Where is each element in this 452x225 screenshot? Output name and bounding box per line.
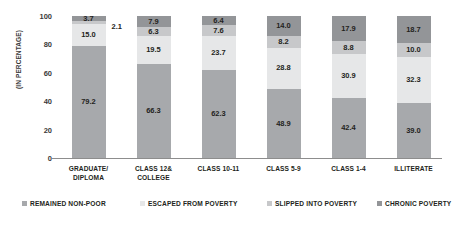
bar-segment-label: 6.3 [148, 28, 158, 36]
bar-segment-label: 2.1 [112, 23, 122, 31]
bar-segment[interactable]: 23.7 [202, 36, 236, 70]
bar-group[interactable]: 14.08.228.848.9 [267, 16, 301, 158]
bar-segment-label: 19.5 [146, 46, 161, 54]
legend-swatch-icon [140, 201, 145, 206]
bar-segment[interactable]: 15.0 [72, 24, 106, 45]
x-axis-label: ILLITERATE [376, 164, 452, 173]
bar-segment[interactable]: 8.2 [267, 36, 301, 48]
y-tick-80: 80 [26, 40, 52, 49]
legend-label: REMAINED NON-POOR [30, 200, 106, 207]
bar-segment-label: 14.0 [276, 22, 291, 30]
bar-segment-label: 7.6 [213, 27, 223, 35]
bar-segment[interactable]: 6.3 [137, 27, 171, 36]
bar-group[interactable]: 6.47.623.762.3 [202, 16, 236, 158]
bar-segment-label: 42.4 [341, 124, 356, 132]
y-axis-title: (IN PERCENTAGE) [15, 15, 22, 105]
bar-segment[interactable]: 62.3 [202, 70, 236, 158]
x-axis-label-line: COLLEGE [116, 173, 192, 182]
legend-swatch-icon [22, 201, 27, 206]
bar-segment-label: 62.3 [211, 110, 226, 118]
stacked-bar-chart: (IN PERCENTAGE) 020406080100 3.72.115.07… [0, 0, 452, 225]
bar-segment[interactable]: 66.3 [137, 64, 171, 158]
bar-segment[interactable]: 79.2 [72, 46, 106, 158]
bar-segment-label: 32.3 [406, 76, 421, 84]
bar-segment[interactable]: 19.5 [137, 36, 171, 64]
bar-segment[interactable]: 32.3 [397, 57, 431, 103]
bar-segment[interactable]: 42.4 [332, 98, 366, 158]
bar-group[interactable]: 18.710.032.339.0 [397, 16, 431, 158]
plot-area: 3.72.115.079.27.96.319.566.36.47.623.762… [56, 16, 446, 158]
bar-segment-label: 18.7 [406, 26, 421, 34]
legend-swatch-icon [267, 201, 272, 206]
bar-segment-label: 39.0 [406, 127, 421, 135]
bar-segment[interactable]: 39.0 [397, 103, 431, 158]
bar-segment[interactable]: 28.8 [267, 48, 301, 89]
chart-legend: REMAINED NON-POORESCAPED FROM POVERTYSLI… [22, 198, 434, 208]
legend-label: SLIPPED INTO POVERTY [275, 200, 357, 207]
legend-item[interactable]: REMAINED NON-POOR [22, 200, 106, 207]
legend-label: ESCAPED FROM POVERTY [148, 200, 237, 207]
legend-swatch-icon [377, 201, 382, 206]
bar-segment-label: 10.0 [406, 46, 421, 54]
bar-segment-label: 28.8 [276, 64, 291, 72]
bar-segment[interactable]: 17.9 [332, 16, 366, 41]
y-tick-100: 100 [26, 12, 52, 21]
bar-segment-label: 48.9 [276, 120, 291, 128]
bar-segment-label: 23.7 [211, 49, 226, 57]
bar-segment[interactable]: 30.9 [332, 54, 366, 98]
x-axis-line [52, 158, 442, 159]
bar-segment-label: 17.9 [341, 25, 356, 33]
y-tick-60: 60 [26, 68, 52, 77]
legend-label: CHRONIC POVERTY [385, 200, 451, 207]
x-axis-labels: GRADUATE/DIPLOMACLASS 12&COLLEGECLASS 10… [56, 164, 446, 190]
bar-segment[interactable]: 18.7 [397, 16, 431, 43]
bar-segment[interactable]: 8.8 [332, 41, 366, 53]
y-tick-40: 40 [26, 97, 52, 106]
y-tick-0: 0 [26, 154, 52, 163]
bar-segment[interactable]: 7.6 [202, 25, 236, 36]
bar-segment-label: 66.3 [146, 107, 161, 115]
bar-segment-label: 8.8 [343, 44, 353, 52]
x-axis-label-line: ILLITERATE [376, 164, 452, 173]
bar-segment-label: 6.4 [213, 17, 223, 25]
y-tick-20: 20 [26, 125, 52, 134]
bar-group[interactable]: 3.72.115.079.2 [72, 16, 106, 158]
bar-segment-label: 15.0 [81, 31, 96, 39]
bar-segment-label: 7.9 [148, 18, 158, 26]
bar-segment[interactable]: 10.0 [397, 43, 431, 57]
bar-segment-label: 79.2 [81, 98, 96, 106]
bar-group[interactable]: 17.98.830.942.4 [332, 16, 366, 158]
bar-segment-label: 8.2 [278, 38, 288, 46]
y-axis-ticks: 020406080100 [26, 10, 52, 162]
bar-group[interactable]: 7.96.319.566.3 [137, 16, 171, 158]
legend-item[interactable]: SLIPPED INTO POVERTY [267, 200, 357, 207]
bar-segment-label: 30.9 [341, 72, 356, 80]
bar-segment[interactable]: 14.0 [267, 16, 301, 36]
legend-item[interactable]: CHRONIC POVERTY [377, 200, 451, 207]
legend-item[interactable]: ESCAPED FROM POVERTY [140, 200, 237, 207]
bar-segment[interactable]: 7.9 [137, 16, 171, 27]
bar-segment[interactable]: 48.9 [267, 89, 301, 158]
bar-segment[interactable]: 6.4 [202, 16, 236, 25]
